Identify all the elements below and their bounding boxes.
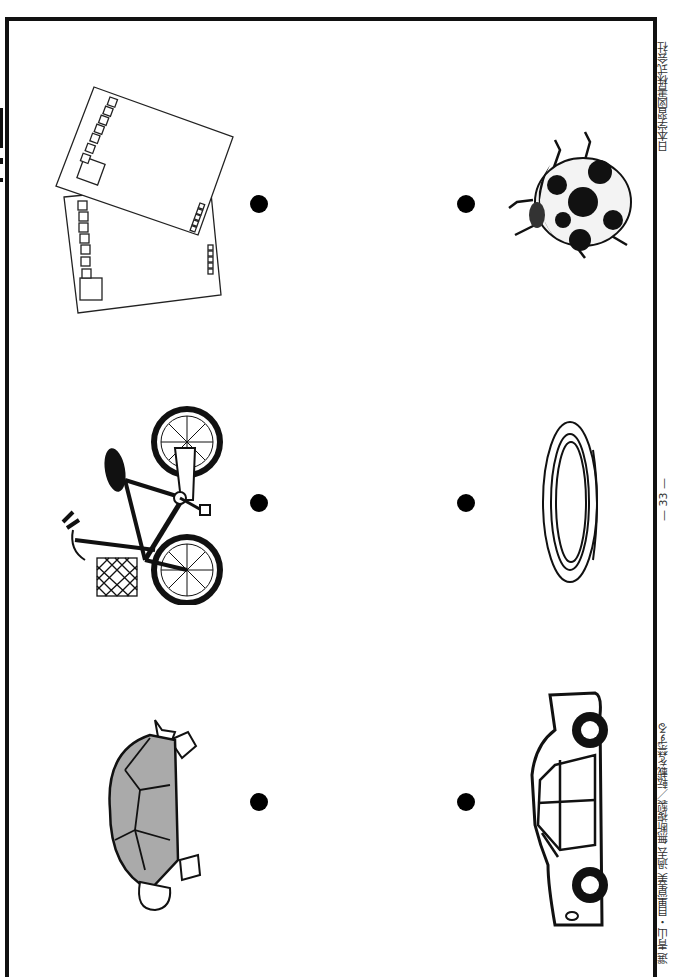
cropped-title-fragment xyxy=(0,158,3,164)
postcards-icon xyxy=(50,85,235,320)
turtle-icon xyxy=(100,710,215,915)
copyright-notice: 選 青山・目黒星美 過去 無断複製／転載を禁ずる xyxy=(651,640,677,964)
publisher-label: 日本学習図書株式会社 xyxy=(651,22,677,152)
page-number: — 33 — xyxy=(651,460,677,540)
ring-icon xyxy=(535,410,605,595)
cropped-title-fragment xyxy=(0,178,3,182)
ladybug-icon xyxy=(505,130,635,260)
connection-dot[interactable] xyxy=(250,195,268,213)
connection-dot[interactable] xyxy=(457,195,475,213)
cropped-title-fragment xyxy=(0,108,3,148)
connection-dot[interactable] xyxy=(250,494,268,512)
connection-dot[interactable] xyxy=(457,494,475,512)
bicycle-icon xyxy=(45,400,225,605)
connection-dot[interactable] xyxy=(250,793,268,811)
connection-dot[interactable] xyxy=(457,793,475,811)
car-icon xyxy=(520,685,620,935)
